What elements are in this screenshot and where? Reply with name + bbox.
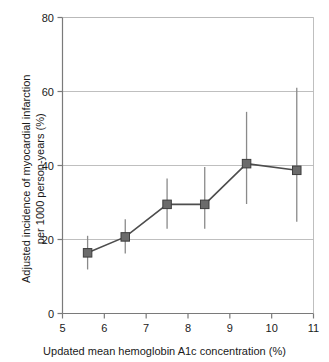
data-point-3 [200,200,209,209]
y-tick-label-0: 0 [20,308,54,319]
y-axis-title-line-2: per 1000 person-years (%) [34,49,48,309]
x-tick-label-9: 9 [227,323,233,334]
x-tick-label-7: 7 [143,323,149,334]
data-point-2 [163,200,172,209]
x-axis-title: Updated mean hemoglobin A1c concentratio… [0,345,329,358]
y-axis-title: Adjusted incidence of myocardial infarct… [20,49,48,309]
data-point-0 [83,249,92,258]
error-bars [88,88,297,270]
x-tick-label-11: 11 [308,323,319,334]
gridlines [63,18,314,240]
chart-figure: 020406080 567891011 Adjusted incidence o… [0,0,329,362]
y-axis-title-line-1: Adjusted incidence of myocardial infarct… [20,49,34,309]
x-tick-label-6: 6 [101,323,107,334]
x-tick-label-5: 5 [59,323,65,334]
data-point-5 [293,166,302,175]
data-point-1 [121,233,130,242]
data-markers [83,159,301,257]
x-tick-label-8: 8 [185,323,191,334]
x-tick-label-10: 10 [266,323,278,334]
data-point-4 [242,159,251,168]
y-tick-label-80: 80 [20,12,54,23]
